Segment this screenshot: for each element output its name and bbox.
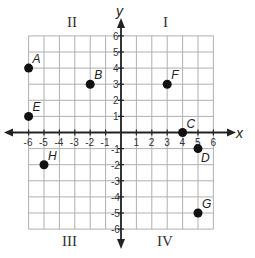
x-axis-arrow-left-icon [4, 129, 13, 137]
x-tick-label: -4 [54, 137, 63, 148]
x-tick-label: -1 [101, 137, 110, 148]
point-label: B [94, 68, 102, 82]
point-label: E [33, 100, 42, 114]
y-tick-label: -5 [111, 208, 120, 219]
x-tick-label: -6 [24, 137, 33, 148]
point-label: A [32, 52, 41, 66]
y-tick-label: -4 [111, 192, 120, 203]
x-tick-label: 4 [180, 137, 186, 148]
quadrant-label-ii: II [67, 14, 77, 31]
x-axis-label: x [235, 125, 244, 141]
coordinate-plane: xy -6-5-4-3-2-1123456654321-1-2-3-4-5-6 … [0, 0, 255, 258]
x-tick-label: -3 [70, 137, 79, 148]
y-tick-label: 2 [113, 95, 119, 106]
y-axis-arrow-up-icon [117, 18, 125, 28]
y-tick-label: -2 [111, 160, 120, 171]
x-tick-label: 3 [164, 137, 170, 148]
x-axis-arrow-right-icon [227, 129, 236, 137]
x-tick-label: -5 [39, 137, 48, 148]
y-tick-label: 5 [113, 47, 119, 58]
x-tick-label: -2 [85, 137, 94, 148]
quadrant-label-iv: IV [157, 233, 173, 250]
point-label: H [48, 149, 57, 163]
x-tick-label: 1 [133, 137, 139, 148]
y-axis-label: y [115, 3, 124, 19]
y-axis-arrow-down-icon [117, 239, 125, 249]
x-tick-label: 2 [149, 137, 155, 148]
axes: xy [4, 3, 244, 249]
point-label: D [201, 151, 210, 165]
y-tick-label: 6 [113, 31, 119, 42]
y-tick-label: 3 [113, 79, 119, 90]
y-tick-label: -1 [111, 144, 120, 155]
point-label: G [202, 197, 211, 211]
y-tick-label: -6 [111, 224, 120, 235]
y-tick-label: 4 [113, 63, 119, 74]
y-tick-label: -3 [111, 176, 120, 187]
x-tick-label: 6 [210, 137, 216, 148]
quadrant-label-i: I [163, 14, 168, 31]
quadrant-label-iii: III [62, 233, 77, 250]
point-label: C [187, 117, 196, 131]
point-label: F [171, 68, 179, 82]
y-tick-label: 1 [113, 111, 119, 122]
